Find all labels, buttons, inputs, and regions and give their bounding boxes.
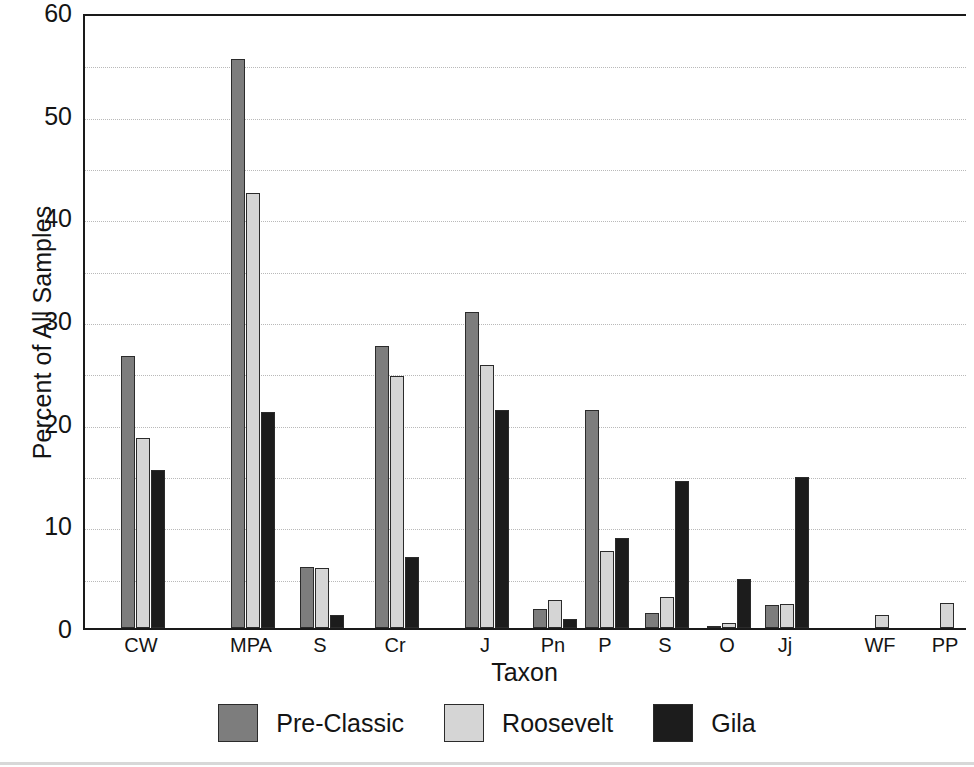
bar [875, 615, 889, 628]
bar [246, 193, 260, 628]
bar [737, 579, 751, 628]
bar-group [707, 16, 752, 628]
bar [390, 376, 404, 628]
y-tick-label: 20 [12, 412, 72, 437]
bar [675, 481, 689, 628]
bar [231, 59, 245, 628]
x-tick-label: Cr [384, 634, 405, 657]
x-tick-label: Jj [778, 634, 792, 657]
bar [495, 410, 509, 628]
x-tick-label: J [480, 634, 490, 657]
legend-entry: Gila [653, 704, 755, 742]
bar-chart-figure: Percent of All Samples 0102030405060 CWM… [0, 0, 974, 767]
legend-label: Roosevelt [502, 709, 613, 738]
plot-area [83, 14, 966, 630]
bar [585, 410, 599, 628]
bar [548, 600, 562, 628]
legend-entry: Roosevelt [444, 704, 653, 742]
bar [121, 356, 135, 628]
x-tick-label: CW [124, 634, 157, 657]
bar [660, 597, 674, 628]
bar-group [585, 16, 630, 628]
bar [261, 412, 275, 628]
bar [600, 551, 614, 628]
legend-label: Gila [711, 709, 755, 738]
image-bottom-edge [0, 762, 974, 765]
chart-legend: Pre-ClassicRooseveltGila [0, 700, 974, 746]
x-tick-label: S [658, 634, 671, 657]
bar [136, 438, 150, 628]
bar [315, 568, 329, 628]
bar-group [121, 16, 166, 628]
bar [780, 604, 794, 628]
y-tick-label: 50 [12, 104, 72, 129]
legend-entry: Pre-Classic [218, 704, 444, 742]
legend-swatch [653, 704, 693, 742]
bar [405, 557, 419, 628]
bar [940, 603, 954, 628]
bar-group [765, 16, 810, 628]
bar [300, 567, 314, 628]
x-tick-label: MPA [230, 634, 272, 657]
bar-group [375, 16, 420, 628]
x-tick-label: S [313, 634, 326, 657]
bar-series-layer [85, 16, 966, 628]
bar [330, 615, 344, 628]
x-tick-label: WF [864, 634, 895, 657]
bar [151, 470, 165, 628]
x-tick-label: O [719, 634, 735, 657]
y-tick-label: 40 [12, 206, 72, 231]
bar [375, 346, 389, 628]
bar-group [533, 16, 578, 628]
y-tick-label: 10 [12, 514, 72, 539]
bar-group [465, 16, 510, 628]
x-tick-label: P [598, 634, 611, 657]
y-tick-label: 30 [12, 309, 72, 334]
bar [765, 605, 779, 628]
x-axis-title: Taxon [83, 658, 966, 687]
bar [480, 365, 494, 628]
legend-swatch [444, 704, 484, 742]
y-axis-tick-labels: 0102030405060 [10, 0, 72, 767]
bar-group [300, 16, 345, 628]
x-tick-label: PP [932, 634, 959, 657]
y-tick-label: 0 [12, 617, 72, 642]
bar [563, 619, 577, 628]
legend-label: Pre-Classic [276, 709, 404, 738]
x-tick-label: Pn [541, 634, 565, 657]
bar-group [925, 16, 970, 628]
bar-group [231, 16, 276, 628]
bar-group [645, 16, 690, 628]
bar [615, 538, 629, 628]
bar [722, 623, 736, 628]
bar [707, 626, 721, 628]
bar [533, 609, 547, 629]
legend-swatch [218, 704, 258, 742]
y-tick-label: 60 [12, 1, 72, 26]
bar-group [860, 16, 905, 628]
bar [645, 613, 659, 628]
bar [795, 477, 809, 628]
bar [465, 312, 479, 628]
